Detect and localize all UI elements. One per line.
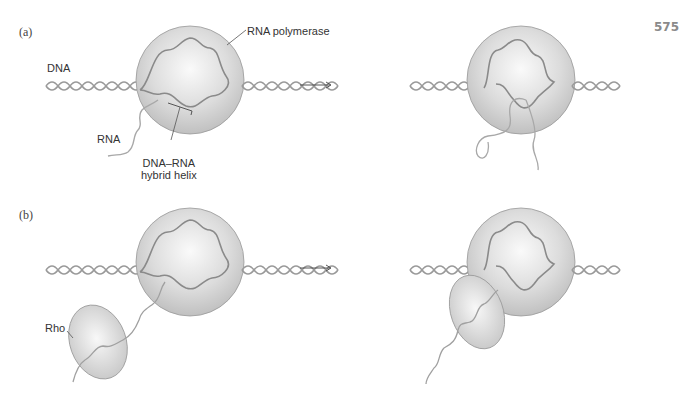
panel-b-label: (b) (19, 208, 33, 223)
rho-protein (59, 297, 138, 388)
panel-b-after (410, 208, 620, 384)
page-number: 575 (654, 20, 679, 34)
dna-label: DNA (47, 62, 70, 74)
rna-label: RNA (97, 133, 120, 145)
rna-polymerase-label: RNA polymerase (247, 25, 330, 37)
hybrid-helix-label-line2: hybrid helix (141, 169, 197, 181)
dna-helix-right (242, 82, 338, 90)
hybrid-helix-label-line1: DNA–RNA (141, 157, 197, 169)
panel-a-after (410, 26, 620, 170)
panel-a-label: (a) (19, 25, 32, 40)
rho-label: Rho (45, 322, 65, 334)
panel-b-before (46, 208, 338, 387)
hybrid-helix-label: DNA–RNA hybrid helix (141, 157, 197, 181)
transcription-termination-diagram (0, 0, 689, 401)
panel-a-before (46, 26, 338, 156)
polymerase-leader (227, 30, 246, 45)
